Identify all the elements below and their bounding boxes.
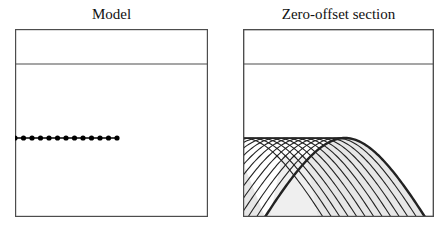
scatterer-point bbox=[89, 135, 94, 140]
panel-title-zero-offset-section: Zero-offset section bbox=[243, 5, 434, 23]
scatterer-point bbox=[97, 135, 102, 140]
scatterer-point bbox=[106, 135, 111, 140]
scatterer-point bbox=[80, 135, 85, 140]
panel-title-model: Model bbox=[15, 5, 208, 23]
scatterer-point bbox=[72, 135, 77, 140]
panel-zero-offset-section bbox=[243, 29, 434, 217]
model-panel-frame bbox=[16, 30, 208, 217]
scatterer-point bbox=[55, 135, 60, 140]
scatterer-point bbox=[46, 135, 51, 140]
scatterer-point bbox=[21, 135, 26, 140]
scatterer-point bbox=[29, 135, 34, 140]
scatterer-point bbox=[114, 135, 119, 140]
scatterer-point bbox=[63, 135, 68, 140]
figure-root: Model Zero-offset section bbox=[0, 0, 448, 229]
scatterer-point bbox=[38, 135, 43, 140]
panel-model bbox=[15, 29, 208, 217]
